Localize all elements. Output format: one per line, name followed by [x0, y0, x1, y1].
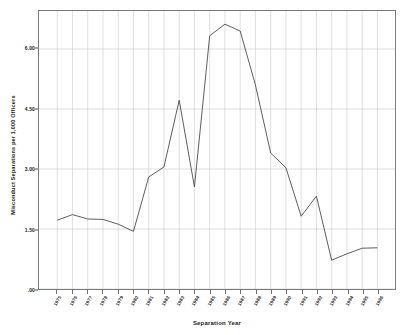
x-tick-label: 1988	[252, 295, 262, 307]
x-tick-label: 1996	[375, 295, 385, 307]
x-tick-label: 1986	[222, 295, 232, 307]
x-tick-label: 1976	[68, 295, 78, 307]
y-tick-label: 4.50	[25, 106, 35, 112]
x-tick-label: 1979	[114, 295, 124, 307]
x-tick-mark	[87, 290, 88, 294]
x-tick-mark	[271, 290, 272, 294]
x-tick-label: 1993	[329, 295, 339, 307]
y-tick-label: .00	[28, 287, 35, 293]
x-tick-mark	[179, 290, 180, 294]
x-tick-mark	[164, 290, 165, 294]
x-tick-label: 1989	[268, 295, 278, 307]
x-tick-mark	[194, 290, 195, 294]
x-tick-mark	[378, 290, 379, 294]
x-axis-title: Separation Year	[38, 320, 396, 326]
x-tick-label: 1994	[344, 295, 354, 307]
x-tick-mark	[225, 290, 226, 294]
x-tick-label: 1980	[130, 295, 140, 307]
x-tick-mark	[133, 290, 134, 294]
x-tick-label: 1992	[314, 295, 324, 307]
x-tick-mark	[56, 290, 57, 294]
x-tick-mark	[317, 290, 318, 294]
series-polyline	[57, 24, 377, 260]
x-tick-mark	[332, 290, 333, 294]
plot-area	[38, 10, 396, 290]
x-tick-mark	[102, 290, 103, 294]
x-tick-mark	[240, 290, 241, 294]
x-tick-mark	[72, 290, 73, 294]
y-tick-label: 6.00	[25, 45, 35, 51]
y-tick-label: 1.50	[25, 227, 35, 233]
x-tick-mark	[286, 290, 287, 294]
x-axis: 1975197619771978197919801981198219831984…	[38, 290, 396, 322]
x-tick-label: 1977	[84, 295, 94, 307]
x-tick-label: 1982	[160, 295, 170, 307]
x-tick-mark	[118, 290, 119, 294]
y-axis-tick-labels: .001.503.004.506.00	[16, 0, 38, 335]
x-tick-mark	[210, 290, 211, 294]
x-tick-label: 1991	[298, 295, 308, 307]
x-tick-mark	[302, 290, 303, 294]
x-tick-label: 1985	[206, 295, 216, 307]
data-series-line	[39, 11, 395, 289]
x-tick-mark	[148, 290, 149, 294]
x-tick-mark	[363, 290, 364, 294]
x-tick-label: 1987	[237, 295, 247, 307]
x-tick-mark	[348, 290, 349, 294]
x-tick-label: 1978	[99, 295, 109, 307]
x-tick-label: 1981	[145, 295, 155, 307]
line-chart-figure: Misconduct Separations per 1,000 Officer…	[0, 0, 404, 335]
x-tick-label: 1983	[176, 295, 186, 307]
x-tick-mark	[256, 290, 257, 294]
x-tick-label: 1995	[360, 295, 370, 307]
y-tick-label: 3.00	[25, 166, 35, 172]
x-tick-label: 1990	[283, 295, 293, 307]
x-tick-label: 1984	[191, 295, 201, 307]
x-tick-label: 1975	[53, 295, 63, 307]
